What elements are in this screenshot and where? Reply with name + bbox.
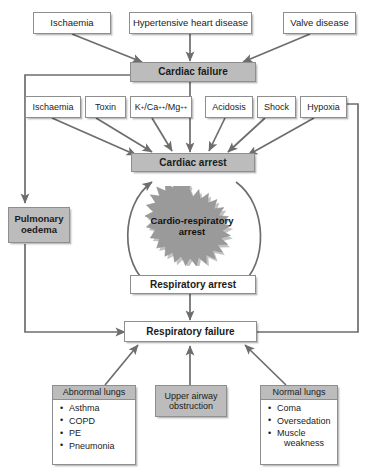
diagram-canvas: Cardio-respiratory arrest Ischaemia Hype… bbox=[0, 0, 374, 473]
arrow-toxin-to-cardiac-arrest bbox=[96, 118, 152, 152]
node-upper-airway-obstruction[interactable]: Upper airway obstruction bbox=[155, 385, 227, 417]
node-respiratory-arrest[interactable]: Respiratory arrest bbox=[130, 275, 256, 294]
arrow-valve-to-cardiac-failure bbox=[243, 34, 310, 62]
arrow-pulmonary-oedema-to-respiratory-failure bbox=[25, 244, 125, 332]
normal-lungs-header: Normal lungs bbox=[261, 386, 337, 400]
node-abnormal-lungs[interactable]: Abnormal lungs Asthma COPD PE Pneumonia bbox=[52, 385, 136, 465]
node-shock[interactable]: Shock bbox=[257, 96, 296, 118]
pulmonary-oedema-line-2: oedema bbox=[14, 225, 63, 236]
list-item: Pneumonia bbox=[60, 441, 135, 451]
node-ischaemia-top[interactable]: Ischaemia bbox=[33, 12, 111, 34]
arrow-electrolytes-to-cardiac-arrest bbox=[152, 118, 172, 151]
arrow-abnormal-lungs-to-respiratory-failure bbox=[105, 345, 138, 385]
node-electrolytes[interactable]: K+/Ca++/Mg++ bbox=[130, 96, 192, 118]
list-item: PE bbox=[60, 428, 135, 438]
node-cardiac-failure[interactable]: Cardiac failure bbox=[130, 62, 256, 82]
normal-lungs-list: Coma Oversedation Muscle weakness bbox=[261, 400, 337, 451]
arrow-cardiac-failure-to-pulmonary-oedema bbox=[25, 75, 130, 203]
node-normal-lungs[interactable]: Normal lungs Coma Oversedation Muscle we… bbox=[260, 385, 338, 465]
node-pulmonary-oedema[interactable]: Pulmonary oedema bbox=[8, 207, 70, 243]
arrow-shock-to-cardiac-arrest bbox=[228, 118, 265, 152]
list-item-text-cont: weakness bbox=[277, 438, 337, 448]
list-item: Asthma bbox=[60, 403, 135, 413]
node-hypertensive-heart-disease[interactable]: Hypertensive heart disease bbox=[129, 12, 252, 34]
abnormal-lungs-header: Abnormal lungs bbox=[53, 386, 135, 400]
node-valve-disease[interactable]: Valve disease bbox=[283, 12, 356, 34]
node-cardiac-arrest[interactable]: Cardiac arrest bbox=[131, 153, 255, 172]
list-item: COPD bbox=[60, 416, 135, 426]
node-ischaemia-mid[interactable]: Ischaemia bbox=[25, 96, 81, 118]
node-acidosis[interactable]: Acidosis bbox=[205, 96, 253, 118]
node-hypoxia[interactable]: Hypoxia bbox=[300, 96, 347, 118]
arrow-ischaemia-to-cardiac-failure bbox=[72, 34, 142, 62]
upper-airway-line-2: obstruction bbox=[164, 401, 217, 411]
node-respiratory-failure[interactable]: Respiratory failure bbox=[124, 321, 257, 342]
cardio-respiratory-arrest-burst: Cardio-respiratory arrest bbox=[122, 186, 262, 266]
arrow-normal-lungs-to-respiratory-failure bbox=[245, 345, 286, 385]
arrow-respiratory-failure-to-hypoxia bbox=[256, 104, 358, 332]
node-toxin[interactable]: Toxin bbox=[85, 96, 126, 118]
arrow-ischaemia-mid-to-cardiac-arrest bbox=[52, 118, 136, 155]
arrow-acidosis-to-cardiac-arrest bbox=[209, 118, 225, 151]
upper-airway-line-1: Upper airway bbox=[164, 391, 217, 401]
list-item: Muscle weakness bbox=[268, 428, 337, 448]
list-item: Oversedation bbox=[268, 416, 337, 426]
abnormal-lungs-list: Asthma COPD PE Pneumonia bbox=[53, 400, 135, 453]
list-item: Coma bbox=[268, 403, 337, 413]
list-item-text: Muscle bbox=[277, 428, 306, 438]
